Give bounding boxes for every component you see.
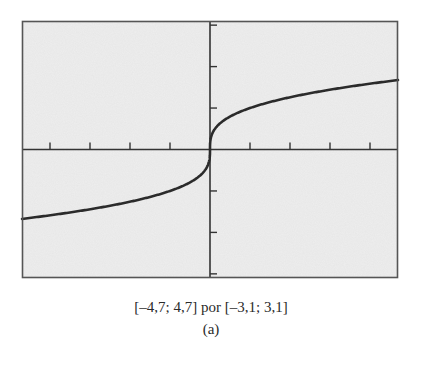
figure-label: (a) <box>0 321 422 338</box>
graph-window <box>0 0 422 290</box>
window-range-caption: [–4,7; 4,7] por [–3,1; 3,1] <box>0 299 422 316</box>
